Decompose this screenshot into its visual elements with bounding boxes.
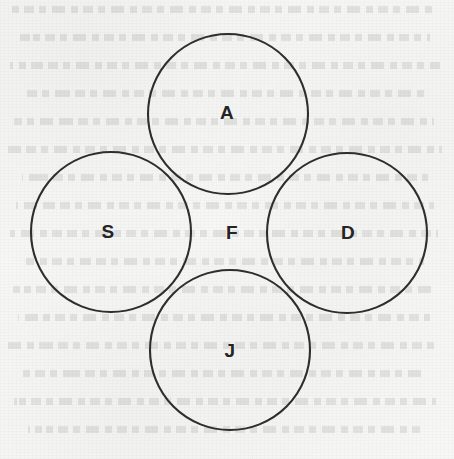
venn-label-j: J: [224, 340, 235, 361]
venn-label-d: D: [341, 222, 355, 243]
venn-label-f: F: [226, 222, 238, 243]
venn-label-group: ASFDJ: [101, 102, 355, 361]
venn-diagram: ASFDJ: [0, 0, 454, 459]
venn-label-a: A: [220, 102, 234, 123]
scanned-page: ASFDJ: [0, 0, 454, 459]
venn-label-s: S: [101, 221, 114, 242]
